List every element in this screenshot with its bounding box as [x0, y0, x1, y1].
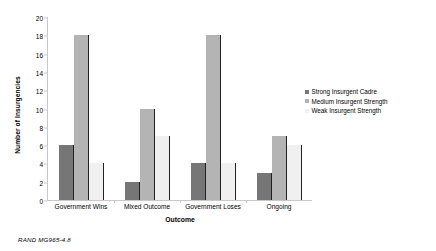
chart-figure: Number of Insurgencies 02468101214161820… [0, 0, 436, 251]
x-tick-label: Government Loses [180, 203, 246, 210]
bar-group [180, 17, 246, 200]
bar [272, 136, 287, 200]
legend-swatch-icon [305, 90, 309, 94]
legend-label: Medium Insurgent Strength [312, 98, 388, 105]
bar-group [246, 17, 312, 200]
y-tick-mark [44, 164, 47, 165]
y-tick-mark [44, 72, 47, 73]
y-tick-mark [44, 146, 47, 147]
legend-label: Strong Insurgent Cadre [312, 88, 377, 95]
legend-item[interactable]: Medium Insurgent Strength [305, 98, 387, 105]
y-tick-mark [44, 201, 47, 202]
y-axis-title: Number of Insurgencies [14, 60, 21, 170]
x-tick-labels: Government WinsMixed OutcomeGovernment L… [48, 203, 312, 210]
bar-groups [48, 17, 312, 200]
y-tick-mark [44, 18, 47, 19]
bar [89, 163, 104, 200]
x-axis-title: Outcome [48, 216, 312, 223]
bar [125, 182, 140, 200]
y-tick-mark [44, 109, 47, 110]
chart-legend: Strong Insurgent CadreMedium Insurgent S… [305, 88, 387, 114]
y-tick-mark [44, 127, 47, 128]
plot-area: 02468101214161820 [47, 17, 312, 201]
bar [191, 163, 206, 200]
bar [257, 173, 272, 200]
bar-group [114, 17, 180, 200]
legend-item[interactable]: Weak Insurgent Strength [305, 107, 387, 114]
legend-swatch-icon [305, 109, 309, 113]
legend-item[interactable]: Strong Insurgent Cadre [305, 88, 387, 95]
x-tick-label: Government Wins [48, 203, 114, 210]
y-tick-mark [44, 91, 47, 92]
bar [206, 35, 221, 200]
bar [155, 136, 170, 200]
bar [74, 35, 89, 200]
y-tick-mark [44, 54, 47, 55]
x-tick-label: Ongoing [246, 203, 312, 210]
bar [287, 145, 302, 200]
bar [221, 163, 236, 200]
bar-group [48, 17, 114, 200]
legend-swatch-icon [305, 99, 309, 103]
y-tick-mark [44, 182, 47, 183]
legend-label: Weak Insurgent Strength [312, 107, 382, 114]
figure-source-note: RAND MG965-4.8 [18, 236, 71, 243]
y-tick-mark [44, 36, 47, 37]
x-tick-label: Mixed Outcome [114, 203, 180, 210]
bar [59, 145, 74, 200]
bar [140, 109, 155, 201]
